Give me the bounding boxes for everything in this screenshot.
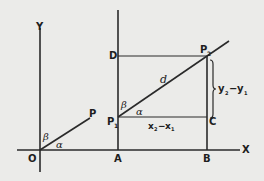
point-b-label: B: [203, 153, 211, 164]
svg-text:1: 1: [244, 90, 248, 96]
y-axis-label: Y: [35, 21, 44, 32]
svg-text:1: 1: [114, 122, 118, 129]
point-p2-label: P 2: [200, 44, 211, 57]
line-p1-p2: [118, 41, 229, 117]
angle-alpha-p1: α: [136, 106, 143, 117]
angle-beta-origin: β: [42, 131, 49, 142]
svg-text:y: y: [218, 83, 225, 94]
point-p1-label: P 1: [107, 116, 118, 129]
x-axis-label: X: [242, 144, 250, 155]
point-c-label: C: [209, 116, 216, 127]
diagram-canvas: Y X O A B C D P P 1 P 2 β α β α d x 2 − …: [0, 0, 264, 181]
angle-beta-p1: β: [120, 99, 127, 110]
brace-y-diff: [210, 60, 216, 118]
svg-text:1: 1: [171, 126, 175, 132]
distance-label: d: [160, 73, 167, 86]
vertical-diff-label: y 2 − y 1: [218, 83, 248, 96]
point-a-label: A: [114, 153, 122, 164]
origin-label: O: [28, 153, 37, 164]
svg-text:y: y: [237, 83, 244, 94]
angle-alpha-origin: α: [56, 139, 63, 150]
point-d-label: D: [109, 50, 117, 61]
svg-text:2: 2: [207, 50, 211, 57]
horizontal-diff-label: x 2 − x 1: [148, 121, 175, 132]
point-p-label: P: [89, 108, 96, 119]
